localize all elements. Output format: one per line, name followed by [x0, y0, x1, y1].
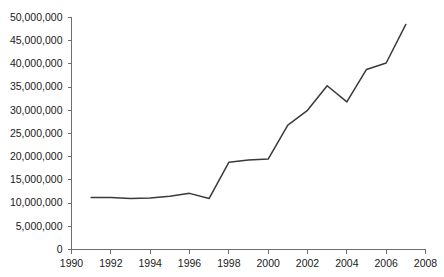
y-tick-label: 50,000,000 — [10, 11, 63, 23]
x-tick-label: 2002 — [296, 257, 320, 269]
y-tick-label: 20,000,000 — [10, 150, 63, 162]
y-tick-label: 45,000,000 — [10, 34, 63, 46]
x-tick-label: 1994 — [138, 257, 162, 269]
x-tick-label: 2000 — [256, 257, 280, 269]
y-tick-label: 10,000,000 — [10, 196, 63, 208]
y-tick-label: 35,000,000 — [10, 80, 63, 92]
x-tick-label: 2004 — [335, 257, 359, 269]
y-tick-label: 15,000,000 — [10, 173, 63, 185]
x-tick-label: 1990 — [60, 257, 84, 269]
x-tick-label: 1998 — [217, 257, 241, 269]
line-chart: 05,000,00010,000,00015,000,00020,000,000… — [0, 0, 444, 277]
x-tick-label: 2006 — [374, 257, 398, 269]
x-tick-label: 1996 — [178, 257, 202, 269]
x-tick-label: 1992 — [99, 257, 123, 269]
y-tick-label: 0 — [57, 243, 63, 255]
y-tick-label: 30,000,000 — [10, 104, 63, 116]
y-tick-label: 25,000,000 — [10, 127, 63, 139]
x-axis-ticks — [72, 250, 426, 254]
x-tick-label: 2008 — [414, 257, 438, 269]
y-axis-ticks — [68, 18, 72, 250]
y-tick-label: 40,000,000 — [10, 57, 63, 69]
y-axis-tick-labels: 05,000,00010,000,00015,000,00020,000,000… — [10, 11, 63, 255]
chart-plot-area: 05,000,00010,000,00015,000,00020,000,000… — [0, 0, 444, 277]
data-series-line — [91, 24, 406, 198]
y-tick-label: 5,000,000 — [16, 220, 63, 232]
x-axis-tick-labels: 1990199219941996199820002002200420062008 — [60, 257, 438, 269]
